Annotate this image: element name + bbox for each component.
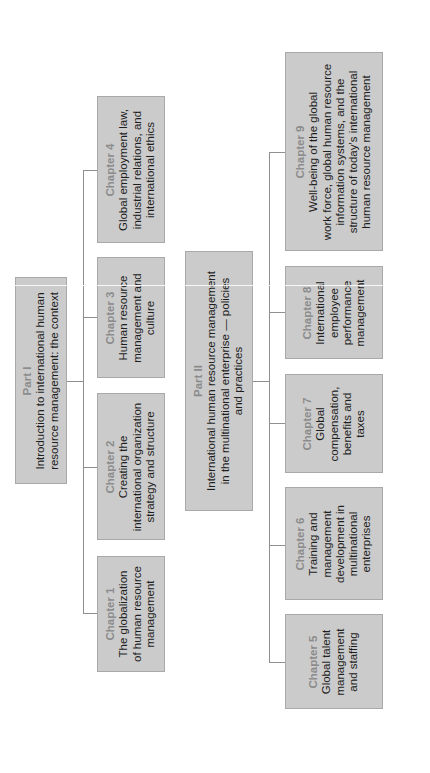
chapter6-label: Chapter 6 bbox=[294, 505, 307, 583]
chapter5-line: and staffing bbox=[347, 628, 360, 695]
chapter1-line: of human resource bbox=[131, 566, 144, 662]
chapter8-box: Chapter 8 International employee perform… bbox=[285, 266, 383, 359]
chapter2-line: international organization bbox=[131, 402, 144, 531]
ch8-connector bbox=[269, 312, 285, 313]
part2-title-line: and practices bbox=[232, 271, 245, 491]
chapter3-text: Chapter 3 Human resource management and … bbox=[104, 273, 157, 363]
chapter7-box: Chapter 7 Global compensation, benefits … bbox=[285, 374, 383, 473]
chapter8-line: International bbox=[314, 279, 327, 346]
chapter2-box: Chapter 2 Creating the international org… bbox=[97, 393, 165, 540]
chapter4-line: Global employment law, bbox=[118, 108, 131, 230]
chapter6-line: development in bbox=[334, 505, 347, 583]
part1-connector bbox=[67, 381, 83, 382]
chapter7-line: Global bbox=[314, 386, 327, 461]
chapter6-line: management bbox=[321, 505, 334, 583]
ch1-connector bbox=[83, 613, 97, 614]
ch6-connector bbox=[269, 545, 285, 546]
chapter9-line: human resource management bbox=[361, 63, 374, 239]
chapter1-box: Chapter 1 The globalization of human res… bbox=[97, 556, 165, 672]
chapter2-label: Chapter 2 bbox=[104, 402, 117, 531]
chapter9-line: information systems, and the bbox=[334, 63, 347, 239]
chapter8-line: employee bbox=[327, 279, 340, 346]
chapter3-box: Chapter 3 Human resource management and … bbox=[97, 257, 165, 378]
part2-title-line: in the multinational enterprise — polici… bbox=[219, 271, 232, 491]
chapter7-text: Chapter 7 Global compensation, benefits … bbox=[301, 386, 367, 461]
chapter2-line: strategy and structure bbox=[144, 402, 157, 531]
chapter8-line: management bbox=[354, 279, 367, 346]
chapter4-line: international ethics bbox=[144, 108, 157, 230]
chapter1-text: Chapter 1 The globalization of human res… bbox=[104, 566, 157, 662]
chapter2-line: Creating the bbox=[118, 402, 131, 531]
chapter7-line: benefits and bbox=[341, 386, 354, 461]
chapter5-text: Chapter 5 Global talent management and s… bbox=[307, 628, 360, 695]
chapter3-line: management and bbox=[131, 273, 144, 363]
chapter3-line: Human resource bbox=[118, 273, 131, 363]
chapter2-text: Chapter 2 Creating the international org… bbox=[104, 402, 157, 531]
part1-text: Part I Introduction to international hum… bbox=[21, 292, 61, 470]
chapter1-line: management bbox=[144, 566, 157, 662]
chapter5-label: Chapter 5 bbox=[307, 628, 320, 695]
chapter5-line: management bbox=[334, 628, 347, 695]
part2-label: Part II bbox=[192, 271, 205, 491]
chapter6-text: Chapter 6 Training and management develo… bbox=[294, 505, 374, 583]
ch5-connector bbox=[269, 662, 285, 663]
part1-box: Part I Introduction to international hum… bbox=[15, 277, 67, 484]
chapter4-label: Chapter 4 bbox=[104, 108, 117, 230]
chapter5-line: Global talent bbox=[321, 628, 334, 695]
part2-connector bbox=[253, 381, 269, 382]
chapter4-line: industrial relations, and bbox=[131, 108, 144, 230]
chapter4-text: Chapter 4 Global employment law, industr… bbox=[104, 108, 157, 230]
part1-spine-connector bbox=[83, 170, 84, 614]
scan-artifact-line bbox=[15, 285, 385, 286]
chapter6-line: Training and bbox=[307, 505, 320, 583]
chapter4-box: Chapter 4 Global employment law, industr… bbox=[97, 96, 165, 243]
chapter9-text: Chapter 9 Well-being of the global work … bbox=[294, 63, 374, 239]
chapter5-box: Chapter 5 Global talent management and s… bbox=[285, 614, 383, 709]
chapter7-line: taxes bbox=[354, 386, 367, 461]
chapter3-line: culture bbox=[144, 273, 157, 363]
chapter1-line: The globalization bbox=[118, 566, 131, 662]
ch2-connector bbox=[83, 467, 97, 468]
chapter7-label: Chapter 7 bbox=[301, 386, 314, 461]
chapter9-line: Well-being of the global bbox=[307, 63, 320, 239]
ch3-connector bbox=[83, 317, 97, 318]
chapter6-line: enterprises bbox=[361, 505, 374, 583]
part1-title-line: Introduction to international human bbox=[34, 292, 47, 470]
chapter6-box: Chapter 6 Training and management develo… bbox=[285, 487, 383, 600]
part1-label: Part I bbox=[21, 292, 34, 470]
chapter8-line: performance bbox=[341, 279, 354, 346]
part2-spine-connector bbox=[269, 152, 270, 663]
part2-title-line: International human resource management bbox=[206, 271, 219, 491]
ch9-connector bbox=[269, 152, 285, 153]
part2-box: Part II International human resource man… bbox=[185, 251, 253, 511]
chapter6-line: multinational bbox=[347, 505, 360, 583]
chapter9-label: Chapter 9 bbox=[294, 63, 307, 239]
chapter9-line: work force, global human resource bbox=[321, 63, 334, 239]
part1-title-line: resource management: the context bbox=[48, 292, 61, 470]
chapter9-box: Chapter 9 Well-being of the global work … bbox=[285, 52, 383, 251]
chapter8-text: Chapter 8 International employee perform… bbox=[301, 279, 367, 346]
ch4-connector bbox=[83, 170, 97, 171]
part2-text: Part II International human resource man… bbox=[192, 271, 245, 491]
chapter9-line: structure of today's international bbox=[347, 63, 360, 239]
chapter1-label: Chapter 1 bbox=[104, 566, 117, 662]
chapter7-line: compensation, bbox=[327, 386, 340, 461]
ch7-connector bbox=[269, 423, 285, 424]
chapter3-label: Chapter 3 bbox=[104, 273, 117, 363]
chapter8-label: Chapter 8 bbox=[301, 279, 314, 346]
